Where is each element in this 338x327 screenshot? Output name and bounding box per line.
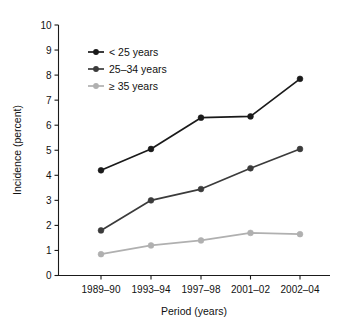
data-point-marker xyxy=(98,251,104,257)
y-tick-label: 1 xyxy=(46,245,52,256)
y-tick-label: 2 xyxy=(46,220,52,231)
data-point-marker xyxy=(248,230,254,236)
y-tick-label: 0 xyxy=(46,270,52,281)
data-point-marker xyxy=(198,115,204,121)
data-point-marker xyxy=(248,165,254,171)
data-point-marker xyxy=(98,167,104,173)
x-axis-title: Period (years) xyxy=(161,305,227,317)
legend-item-label: 25–34 years xyxy=(109,63,167,75)
y-tick-label: 9 xyxy=(46,45,52,56)
y-tick-label: 3 xyxy=(46,195,52,206)
x-axis-ticks xyxy=(101,276,300,280)
legend-marker-icon xyxy=(93,83,99,89)
data-point-marker xyxy=(148,146,154,152)
x-tick-label: 2002–04 xyxy=(281,284,320,295)
data-point-marker xyxy=(198,238,204,244)
data-point-marker xyxy=(198,186,204,192)
data-series-group xyxy=(98,76,303,257)
legend-marker-icon xyxy=(93,66,99,72)
x-tick-label: 1993–94 xyxy=(132,284,171,295)
x-tick-label: 1989–90 xyxy=(82,284,121,295)
y-tick-label: 6 xyxy=(46,120,52,131)
legend-item-label: < 25 years xyxy=(109,46,158,58)
y-tick-label: 5 xyxy=(46,145,52,156)
chart-legend: < 25 years25–34 years≥ 35 years xyxy=(88,46,167,92)
x-tick-label: 1997–98 xyxy=(182,284,221,295)
y-tick-label: 10 xyxy=(40,20,52,31)
y-tick-label: 8 xyxy=(46,70,52,81)
data-point-marker xyxy=(98,228,104,234)
y-axis-ticks xyxy=(55,25,59,276)
legend-item-label: ≥ 35 years xyxy=(109,80,158,92)
y-tick-label: 4 xyxy=(46,170,52,181)
y-axis-title: Incidence (percent) xyxy=(11,105,23,195)
data-series xyxy=(98,230,303,257)
y-axis-tick-labels: 012345678910 xyxy=(40,20,52,282)
data-point-marker xyxy=(148,243,154,249)
legend-marker-icon xyxy=(93,49,99,55)
y-tick-label: 7 xyxy=(46,95,52,106)
line-chart: 012345678910 1989–901993–941997–982001–0… xyxy=(0,0,338,327)
x-tick-label: 2001–02 xyxy=(231,284,270,295)
data-point-marker xyxy=(297,76,303,82)
data-point-marker xyxy=(248,114,254,120)
series-line xyxy=(101,79,300,170)
data-point-marker xyxy=(297,146,303,152)
x-axis-tick-labels: 1989–901993–941997–982001–022002–04 xyxy=(82,284,320,295)
data-point-marker xyxy=(297,231,303,237)
chart-container: 012345678910 1989–901993–941997–982001–0… xyxy=(0,0,338,327)
data-point-marker xyxy=(148,197,154,203)
